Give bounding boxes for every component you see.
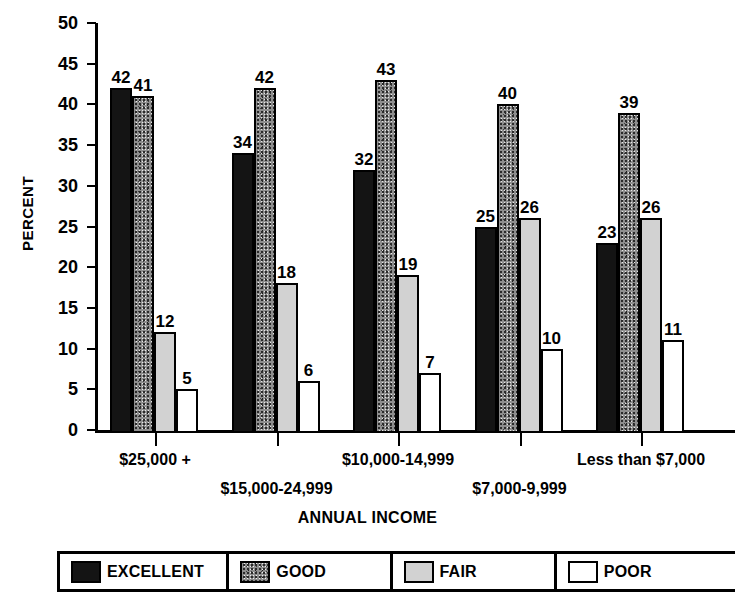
- bar-value-label: 40: [491, 85, 525, 102]
- legend-item-label: GOOD: [276, 563, 326, 581]
- y-tick-label: 15: [38, 299, 78, 317]
- y-tick-label: 50: [38, 14, 78, 32]
- bar-value-label: 26: [513, 199, 547, 216]
- bar-fair-4: [519, 218, 541, 433]
- x-tick-mark: [155, 433, 157, 446]
- bar-value-label: 23: [590, 224, 624, 241]
- y-tick-label: 30: [38, 177, 78, 195]
- y-tick-mark: [87, 266, 96, 268]
- bar-value-label: 39: [612, 94, 646, 111]
- bar-fair-2: [276, 283, 298, 433]
- y-tick-mark: [87, 348, 96, 350]
- legend-swatch-icon: [71, 561, 101, 583]
- bar-value-label: 19: [391, 256, 425, 273]
- bar-value-label: 5: [170, 370, 204, 387]
- bar-poor-4: [541, 349, 563, 433]
- bar-value-label: 11: [656, 321, 690, 338]
- x-category-label: Less than $7,000: [541, 452, 735, 468]
- bar-value-label: 6: [292, 362, 326, 379]
- bar-excellent-4: [475, 227, 497, 434]
- bar-poor-1: [176, 389, 198, 433]
- y-tick-mark: [87, 185, 96, 187]
- y-tick-label: 10: [38, 340, 78, 358]
- x-category-label: $25,000 +: [55, 452, 255, 468]
- bar-chart: PERCENT 50454035302520151050 42411253442…: [0, 0, 735, 595]
- bar-good-1: [132, 96, 154, 433]
- legend-item-label: POOR: [604, 563, 652, 581]
- y-tick-mark: [87, 103, 96, 105]
- bar-excellent-2: [232, 153, 254, 433]
- x-tick-mark: [398, 433, 400, 446]
- x-tick-mark: [641, 433, 643, 446]
- x-axis-title: ANNUAL INCOME: [0, 509, 735, 527]
- y-tick-label: 40: [38, 95, 78, 113]
- legend-item-excellent[interactable]: EXCELLENT: [60, 554, 229, 589]
- bar-poor-2: [298, 381, 320, 433]
- bar-good-5: [618, 113, 640, 433]
- legend-item-label: EXCELLENT: [107, 563, 204, 581]
- x-category-label: $15,000-24,999: [177, 481, 377, 497]
- legend-swatch-icon: [404, 561, 434, 583]
- x-tick-mark: [277, 433, 279, 446]
- y-tick-mark: [87, 226, 96, 228]
- bar-good-4: [497, 104, 519, 433]
- y-tick-label: 45: [38, 55, 78, 73]
- legend-item-poor[interactable]: POOR: [557, 554, 735, 589]
- legend-swatch-icon: [568, 561, 598, 583]
- y-tick-mark: [87, 388, 96, 390]
- bar-value-label: 41: [126, 77, 160, 94]
- bar-value-label: 18: [270, 264, 304, 281]
- y-tick-label: 35: [38, 136, 78, 154]
- y-axis-line: [95, 23, 98, 433]
- bar-excellent-5: [596, 243, 618, 433]
- bar-value-label: 7: [413, 354, 447, 371]
- legend-item-label: FAIR: [440, 563, 477, 581]
- bar-excellent-1: [110, 88, 132, 433]
- x-category-label: $10,000-14,999: [298, 452, 498, 468]
- x-category-label: $7,000-9,999: [420, 481, 620, 497]
- legend-item-fair[interactable]: FAIR: [393, 554, 557, 589]
- y-tick-mark: [87, 307, 96, 309]
- legend-swatch-icon: [240, 561, 270, 583]
- y-tick-mark: [87, 63, 96, 65]
- bar-value-label: 25: [469, 208, 503, 225]
- y-tick-mark: [87, 429, 96, 431]
- bar-value-label: 12: [148, 313, 182, 330]
- bar-value-label: 26: [634, 199, 668, 216]
- x-tick-mark: [520, 433, 522, 446]
- y-tick-mark: [87, 144, 96, 146]
- bar-poor-5: [662, 340, 684, 433]
- y-tick-label: 0: [38, 421, 78, 439]
- y-tick-label: 20: [38, 258, 78, 276]
- bar-poor-3: [419, 373, 441, 433]
- bar-value-label: 42: [248, 69, 282, 86]
- bar-value-label: 32: [347, 151, 381, 168]
- y-tick-label: 5: [38, 380, 78, 398]
- legend-item-good[interactable]: GOOD: [229, 554, 392, 589]
- chart-legend: EXCELLENTGOODFAIRPOOR: [57, 551, 735, 592]
- bar-value-label: 10: [535, 330, 569, 347]
- y-tick-label: 25: [38, 218, 78, 236]
- bar-value-label: 43: [369, 61, 403, 78]
- y-tick-mark: [87, 22, 96, 24]
- y-axis-title: PERCENT: [19, 154, 36, 274]
- bar-value-label: 34: [226, 134, 260, 151]
- bar-excellent-3: [353, 170, 375, 433]
